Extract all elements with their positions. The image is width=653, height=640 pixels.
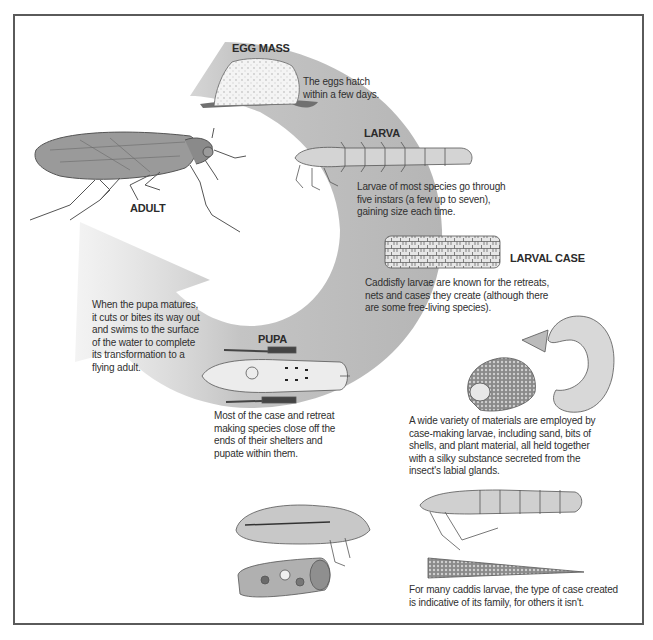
larval-case-illustration [385,236,500,268]
case-family-note: For many caddis larvae, the type of case… [409,584,618,609]
larval-case-caption: Caddisfly larvae are known for the retre… [365,277,549,315]
case-materials-note: A wide variety of materials are employed… [409,415,595,478]
tapered-case-larva-illustration [420,490,584,578]
larval-case-label: LARVAL CASE [510,252,585,264]
case-material-illustration [468,316,614,412]
adult-caddisfly-illustration [30,128,246,232]
adult-caption: When the pupa matures, it cuts or bites … [92,299,200,374]
egg-mass-label: EGG MASS [232,42,290,54]
larva-label: LARVA [364,127,400,139]
pupa-label: PUPA [258,333,287,345]
egg-mass-caption: The eggs hatch within a few days. [303,76,379,101]
adult-label: ADULT [130,202,165,214]
pupa-caption: Most of the case and retreat making spec… [214,410,335,460]
case-making-larva-illustration [236,505,370,597]
larva-caption: Larvae of most species go through five i… [357,181,505,219]
